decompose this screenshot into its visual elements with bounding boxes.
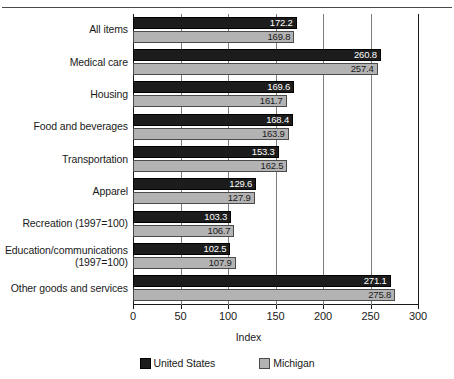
- bar-value-label: 106.7: [208, 226, 231, 236]
- bar-mi: 257.4: [133, 63, 378, 75]
- x-tick-label: 300: [409, 310, 427, 322]
- bar-value-label: 271.1: [364, 276, 387, 286]
- x-tick-50: [181, 305, 182, 309]
- x-tick-label: 50: [174, 310, 186, 322]
- bar-value-label: 129.6: [229, 179, 252, 189]
- bar-mi: 162.5: [133, 160, 287, 172]
- legend-swatch-us: [140, 358, 151, 369]
- x-tick-250: [371, 305, 372, 309]
- bar-value-label: 172.2: [270, 18, 293, 28]
- bar-group: 153.3162.5: [133, 145, 418, 175]
- bar-mi: 107.9: [133, 257, 236, 269]
- category-label: Education/communications (1997=100): [5, 245, 128, 268]
- x-tick-0: [133, 305, 134, 309]
- bar-value-label: 107.9: [209, 258, 232, 268]
- legend-label: Michigan: [273, 357, 314, 369]
- category-label: Medical care: [70, 57, 128, 69]
- bar-mi: 163.9: [133, 128, 289, 140]
- plot-area: 172.2169.8260.8257.4169.6161.7168.4163.9…: [133, 14, 418, 305]
- x-tick-label: 200: [314, 310, 332, 322]
- gridline-300: [418, 14, 419, 305]
- x-tick-label: 250: [361, 310, 379, 322]
- bar-us: 129.6: [133, 178, 256, 190]
- bar-us: 102.5: [133, 243, 230, 255]
- x-tick-label: 100: [219, 310, 237, 322]
- bar-value-label: 169.8: [268, 32, 291, 42]
- bar-value-label: 161.7: [260, 96, 283, 106]
- bar-group: 103.3106.7: [133, 210, 418, 240]
- bar-us: 168.4: [133, 114, 293, 126]
- bar-group: 271.1275.8: [133, 274, 418, 304]
- header-rule: [2, 7, 452, 8]
- bar-us: 169.6: [133, 81, 294, 93]
- x-axis-title: Index: [0, 331, 454, 343]
- bar-value-label: 257.4: [351, 64, 374, 74]
- bar-us: 172.2: [133, 17, 297, 29]
- category-label: Transportation: [62, 154, 128, 166]
- legend-item: United States: [140, 357, 216, 369]
- bar-value-label: 102.5: [204, 244, 227, 254]
- bar-mi: 161.7: [133, 95, 287, 107]
- x-tick-200: [323, 305, 324, 309]
- bar-group: 260.8257.4: [133, 48, 418, 78]
- x-tick-150: [276, 305, 277, 309]
- category-label: Housing: [90, 89, 128, 101]
- x-tick-label: 150: [266, 310, 284, 322]
- legend-swatch-mi: [259, 358, 270, 369]
- bar-group: 102.5107.9: [133, 242, 418, 272]
- bar-us: 271.1: [133, 275, 391, 287]
- legend-item: Michigan: [259, 357, 314, 369]
- bar-value-label: 162.5: [261, 161, 284, 171]
- category-label: Recreation (1997=100): [22, 218, 128, 230]
- category-label: All items: [89, 24, 128, 36]
- bar-group: 169.6161.7: [133, 80, 418, 110]
- x-tick-label: 0: [130, 310, 136, 322]
- bar-us: 260.8: [133, 49, 381, 61]
- bar-us: 103.3: [133, 211, 231, 223]
- category-label: Other goods and services: [11, 283, 128, 295]
- bar-value-label: 153.3: [252, 147, 275, 157]
- bar-value-label: 163.9: [262, 129, 285, 139]
- bar-mi: 275.8: [133, 289, 395, 301]
- bar-value-label: 168.4: [266, 115, 289, 125]
- category-label: Food and beverages: [33, 121, 128, 133]
- bar-mi: 127.9: [133, 192, 255, 204]
- chart-legend: United StatesMichigan: [0, 357, 454, 369]
- bar-value-label: 260.8: [354, 50, 377, 60]
- bar-value-label: 103.3: [204, 212, 227, 222]
- chart-figure: 172.2169.8260.8257.4169.6161.7168.4163.9…: [0, 0, 454, 379]
- bar-mi: 106.7: [133, 225, 234, 237]
- bar-value-label: 169.6: [267, 82, 290, 92]
- bar-group: 168.4163.9: [133, 113, 418, 143]
- bar-group: 172.2169.8: [133, 16, 418, 46]
- category-label: Apparel: [93, 186, 129, 198]
- bar-group: 129.6127.9: [133, 177, 418, 207]
- bar-value-label: 275.8: [368, 290, 391, 300]
- bar-rows: 172.2169.8260.8257.4169.6161.7168.4163.9…: [133, 14, 418, 305]
- legend-label: United States: [154, 357, 216, 369]
- bar-value-label: 127.9: [228, 193, 251, 203]
- bar-us: 153.3: [133, 146, 279, 158]
- x-tick-300: [418, 305, 419, 309]
- bar-mi: 169.8: [133, 31, 294, 43]
- x-tick-100: [228, 305, 229, 309]
